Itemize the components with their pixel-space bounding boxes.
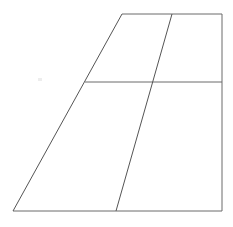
figure-svg (0, 0, 233, 227)
figure-canvas (0, 0, 233, 227)
faint-speck-artifact (38, 78, 42, 81)
